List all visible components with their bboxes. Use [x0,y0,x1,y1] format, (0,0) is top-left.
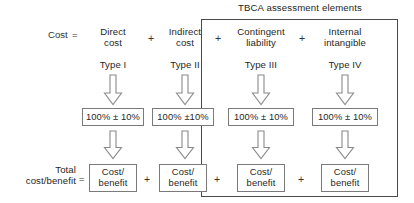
down-block-arrow-icon [251,74,271,106]
type-label-direct-cost: Type I [85,59,141,70]
tbca-frame-title: TBCA assessment elements [222,2,378,13]
uncertainty-box-direct-cost: 100% ± 10% [82,108,144,126]
plus-sign-result-contingent-liability: + [212,174,222,185]
plus-sign-internal-intangible: + [297,33,307,44]
plus-sign-indirect-cost: + [146,33,156,44]
term-label-indirect-cost: Indirect cost [157,26,213,49]
term-label-direct-cost: Direct cost [85,26,141,49]
uncertainty-box-contingent-liability: 100% ± 10% [228,108,294,126]
result-box-contingent-liability: Cost/ benefit [237,164,285,192]
uncertainty-box-indirect-cost: 100% ±10% [152,108,214,126]
total-equals-sign: = [79,174,85,184]
plus-sign-contingent-liability: + [213,33,223,44]
result-box-indirect-cost: Cost/ benefit [159,164,207,192]
plus-sign-result-internal-intangible: + [296,174,306,185]
down-block-arrow-icon [103,74,123,106]
term-label-internal-intangible: Internal intangible [309,26,381,49]
down-block-arrow-icon [175,74,195,106]
down-block-arrow-icon [335,74,355,106]
total-cost-benefit-label: Total cost/benefit [8,164,76,187]
type-label-internal-intangible: Type IV [309,59,381,70]
result-box-direct-cost: Cost/ benefit [89,164,137,192]
down-block-arrow-icon [103,130,123,160]
down-block-arrow-icon [251,130,271,160]
type-label-indirect-cost: Type II [157,59,213,70]
cost-equation-label: Cost [48,30,68,40]
term-label-contingent-liability: Contingent liability [225,26,297,49]
uncertainty-box-internal-intangible: 100% ± 10% [312,108,378,126]
tbca-cost-benefit-diagram: TBCA assessment elements Cost = Direct c… [0,0,414,203]
result-box-internal-intangible: Cost/ benefit [321,164,369,192]
down-block-arrow-icon [175,130,195,160]
type-label-contingent-liability: Type III [225,59,297,70]
plus-sign-result-indirect-cost: + [142,174,152,185]
cost-equation-equals-sign: = [72,30,78,40]
down-block-arrow-icon [335,130,355,160]
